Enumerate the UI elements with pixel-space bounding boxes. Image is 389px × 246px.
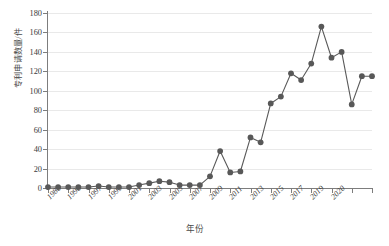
- data-point: [55, 184, 61, 190]
- series-markers: [45, 24, 375, 190]
- data-point: [359, 73, 365, 79]
- data-point: [136, 182, 142, 188]
- data-point: [75, 184, 81, 190]
- data-point: [237, 169, 243, 175]
- data-point: [177, 182, 183, 188]
- data-point: [96, 183, 102, 189]
- data-point: [65, 184, 71, 190]
- data-point: [349, 101, 355, 107]
- data-point: [106, 184, 112, 190]
- data-point: [187, 182, 193, 188]
- data-point: [248, 135, 254, 141]
- data-point: [268, 101, 274, 107]
- data-point: [369, 73, 375, 79]
- data-point: [339, 49, 345, 55]
- data-point: [197, 182, 203, 188]
- data-point: [146, 180, 152, 186]
- x-axis-title: 年份: [0, 222, 389, 234]
- data-point: [45, 184, 51, 190]
- data-point: [86, 184, 92, 190]
- data-point: [126, 184, 132, 190]
- data-point: [227, 170, 233, 176]
- data-point: [329, 55, 335, 61]
- data-point: [318, 24, 324, 30]
- data-point: [278, 94, 284, 100]
- patent-application-line-chart: 专利申请数量/件 020406080100120140160180 198819…: [0, 0, 389, 246]
- data-point: [258, 139, 264, 145]
- data-series-layer: [0, 0, 389, 246]
- data-point: [156, 178, 162, 184]
- data-point: [308, 61, 314, 67]
- data-point: [167, 179, 173, 185]
- data-point: [298, 77, 304, 83]
- data-point: [288, 70, 294, 76]
- series-line: [48, 27, 372, 187]
- data-point: [116, 184, 122, 190]
- data-point: [207, 173, 213, 179]
- data-point: [217, 148, 223, 154]
